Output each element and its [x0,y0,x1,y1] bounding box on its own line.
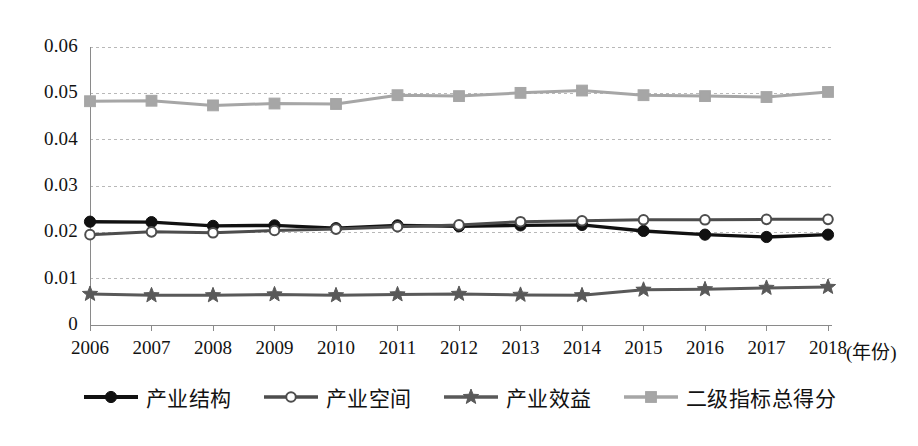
legend-label: 产业结构 [146,382,232,412]
data-point-marker [392,90,403,101]
legend-label: 二级指标总得分 [686,382,837,412]
legend-label: 产业空间 [326,382,412,412]
series-layer [82,85,835,302]
x-axis-tick-label: 2016 [673,337,737,359]
data-point-marker [331,224,341,234]
data-point-marker [267,286,282,300]
data-point-marker [286,392,296,402]
legend-item-2[interactable]: 产业空间 [262,382,412,412]
data-point-marker [820,279,835,293]
data-point-marker [638,225,649,236]
legend-marker-filled-circle-icon [82,386,140,408]
data-point-marker [144,287,159,301]
x-axis-tick-label: 2010 [304,337,368,359]
data-point-marker [84,216,95,227]
data-point-marker [823,215,833,225]
data-point-marker [270,226,280,236]
legend-marker-square-icon [622,386,680,408]
data-point-marker [85,230,95,240]
data-point-marker [822,229,833,240]
data-point-marker [146,217,157,228]
x-axis-tick-label: 2012 [427,337,491,359]
y-axis-tick-label: 0.01 [44,267,78,289]
x-axis-tick-label: 2008 [181,337,245,359]
y-axis-tick-label: 0.06 [44,35,78,57]
x-axis-tick-label: 2013 [489,337,553,359]
y-axis-tick-label: 0.05 [44,81,78,103]
y-axis-tick-label: 0 [68,313,78,335]
data-point-marker [208,228,218,238]
legend-marker-open-circle-icon [262,386,320,408]
data-point-marker [577,216,587,226]
legend-label: 产业效益 [506,382,592,412]
data-point-marker [147,227,157,237]
data-point-marker [700,91,711,102]
x-axis-unit-label: (年份) [846,337,897,364]
x-axis-tick-label: 2014 [550,337,614,359]
x-axis-tick-label: 2009 [243,337,307,359]
x-axis-tick-label: 2015 [612,337,676,359]
y-axis-tick-label: 0.03 [44,174,78,196]
data-point-marker [638,90,649,101]
data-point-marker [761,231,772,242]
data-point-marker [645,392,656,403]
series-3 [82,279,835,302]
data-point-marker [269,98,280,109]
x-axis-tick-label: 2011 [366,337,430,359]
data-point-marker [105,391,116,402]
data-point-marker [759,280,774,294]
data-point-marker [515,87,526,98]
line-chart: 0.060.050.040.030.020.010 20062007200820… [0,0,918,446]
data-point-marker [85,96,96,107]
legend-item-1[interactable]: 产业结构 [82,382,232,412]
data-point-marker [390,286,405,300]
data-point-marker [636,282,651,296]
series-4 [85,85,834,111]
x-axis-tick-label: 2017 [735,337,799,359]
data-point-marker [577,85,588,96]
data-point-marker [697,281,712,295]
x-axis-ticks [90,325,828,331]
data-point-marker [761,92,772,103]
data-point-marker [451,286,466,300]
data-point-marker [699,229,710,240]
data-point-marker [454,91,465,102]
data-point-marker [454,220,464,230]
x-axis-tick-label: 2007 [120,337,184,359]
data-point-marker [516,217,526,227]
chart-legend: 产业结构产业空间产业效益二级指标总得分 [0,374,918,420]
data-point-marker [700,215,710,225]
legend-item-3[interactable]: 产业效益 [442,382,592,412]
data-point-marker [146,95,157,106]
data-point-marker [762,215,772,225]
y-axis-tick-label: 0.04 [44,128,78,150]
data-point-marker [328,287,343,301]
data-point-marker [331,99,342,110]
legend-marker-star-icon [442,386,500,408]
data-point-marker [393,222,403,232]
x-axis-tick-label: 2006 [58,337,122,359]
gridlines [90,47,832,325]
data-point-marker [205,287,220,301]
data-point-marker [574,287,589,301]
data-point-marker [513,287,528,301]
data-point-marker [639,215,649,225]
data-point-marker [208,100,219,111]
data-point-marker [823,87,834,98]
y-axis-tick-label: 0.02 [44,220,78,242]
data-point-marker [463,389,478,403]
legend-item-4[interactable]: 二级指标总得分 [622,382,837,412]
